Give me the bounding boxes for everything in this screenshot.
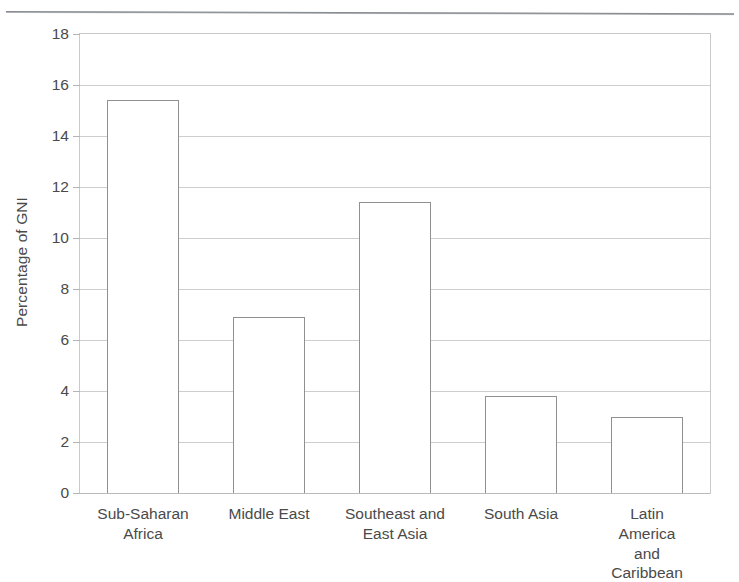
page-top-rule <box>6 11 734 15</box>
bar <box>233 317 304 493</box>
y-tick-label: 0 <box>60 485 69 501</box>
y-tick-label: 8 <box>60 281 69 297</box>
y-tick-mark <box>73 238 80 239</box>
bar <box>485 396 556 493</box>
x-tick-label: Sub-Saharan Africa <box>97 504 188 544</box>
y-tick-mark <box>73 85 80 86</box>
x-tick-label: South Asia <box>484 504 558 524</box>
bar <box>611 417 682 494</box>
x-tick-label: Latin America and Caribbean <box>611 504 683 582</box>
y-tick-label: 4 <box>60 383 69 399</box>
y-tick-mark <box>73 34 80 35</box>
y-axis-title: Percentage of GNI <box>13 142 31 382</box>
y-tick-label: 6 <box>60 332 69 348</box>
gridline <box>80 85 710 86</box>
y-tick-label: 14 <box>52 128 69 144</box>
y-tick-mark <box>73 187 80 188</box>
y-tick-label: 12 <box>52 179 69 195</box>
y-tick-label: 2 <box>60 434 69 450</box>
y-tick-mark <box>73 391 80 392</box>
x-tick-label: Middle East <box>229 504 310 524</box>
bar <box>107 100 178 493</box>
y-tick-label: 16 <box>52 77 69 93</box>
bar <box>359 202 430 493</box>
y-tick-label: 18 <box>52 26 69 42</box>
gridline <box>80 493 710 494</box>
y-tick-label: 10 <box>52 230 69 246</box>
y-tick-mark <box>73 136 80 137</box>
y-tick-mark <box>73 340 80 341</box>
y-tick-mark <box>73 493 80 494</box>
y-tick-mark <box>73 289 80 290</box>
y-tick-mark <box>73 442 80 443</box>
x-tick-label: Southeast and East Asia <box>345 504 445 544</box>
plot-area: 024681012141618 Sub-Saharan AfricaMiddle… <box>79 33 711 494</box>
